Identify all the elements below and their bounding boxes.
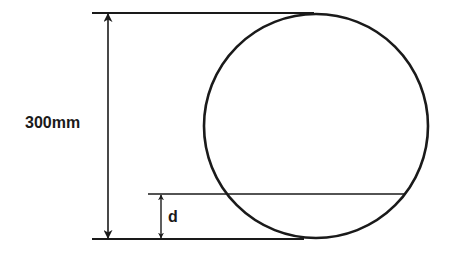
depth-label: d	[168, 208, 178, 225]
diameter-label: 300mm	[25, 114, 80, 131]
circle-diagram: 300mm d	[0, 0, 455, 270]
pipe-circle	[204, 14, 428, 238]
